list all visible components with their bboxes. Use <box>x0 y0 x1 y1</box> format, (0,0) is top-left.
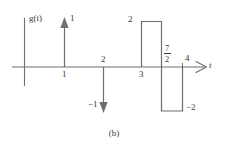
impulse-up-arrowhead <box>60 17 68 28</box>
tick-label-1: 1 <box>62 70 67 79</box>
impulse-down-arrowhead <box>99 102 107 113</box>
impulse-up-value-label: 1 <box>70 14 75 23</box>
tick-label-3: 3 <box>139 70 144 79</box>
fraction-denominator: 2 <box>161 55 173 64</box>
function-label: g(t) <box>29 14 42 23</box>
function-label-text: g(t) <box>29 13 42 23</box>
tick-label-2: 2 <box>101 55 106 64</box>
fraction-numerator: 7 <box>161 44 173 53</box>
figure-container: g(t) 1 −1 1 2 3 4 7 2 2 −2 t (b) <box>0 0 228 147</box>
pulse-bottom-value-label: −2 <box>186 103 196 112</box>
positive-pulse <box>142 22 162 68</box>
pulse-top-value-label: 2 <box>128 15 133 24</box>
figure-caption: (b) <box>0 128 228 138</box>
t-axis-label: t <box>209 61 212 70</box>
negative-pulse <box>162 67 183 111</box>
tick-label-4: 4 <box>185 54 190 63</box>
impulse-down-value-label: −1 <box>88 100 98 109</box>
tick-label-seven-halves: 7 2 <box>161 44 173 63</box>
